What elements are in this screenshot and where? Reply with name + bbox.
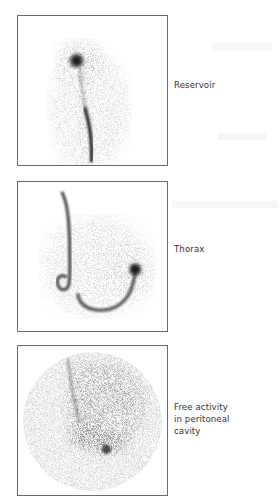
- scintigram-reservoir: [17, 15, 168, 166]
- panel-label-reservoir: Reservoir: [174, 79, 215, 91]
- bleed-through-mark: [172, 201, 277, 208]
- panel-label-thorax: Thorax: [174, 243, 204, 255]
- panel-label-peritoneal-cavity: Free activity in peritoneal cavity: [174, 401, 264, 437]
- scintigram-peritoneal-cavity: [17, 345, 168, 496]
- bleed-through-mark: [218, 133, 266, 140]
- thorax-scan-image: [18, 182, 167, 331]
- reservoir-scan-image: [18, 16, 167, 165]
- bleed-through-mark: [212, 43, 272, 51]
- peritoneal-scan-image: [18, 346, 167, 495]
- scintigram-thorax: [17, 181, 168, 332]
